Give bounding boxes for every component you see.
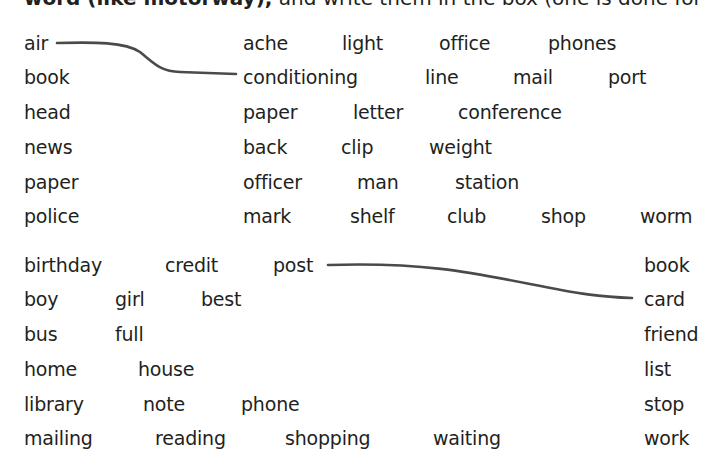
connector-post-card — [328, 264, 632, 298]
word-news: news — [24, 135, 72, 159]
word-weight: weight — [429, 135, 492, 159]
word-card: card — [644, 287, 685, 311]
word-mail: mail — [513, 65, 553, 89]
word-station: station — [455, 170, 519, 194]
word-line: line — [425, 65, 459, 89]
word-list: list — [644, 357, 671, 381]
word-conference: conference — [458, 100, 562, 124]
word-light: light — [342, 31, 383, 55]
word-shopping: shopping — [285, 426, 370, 450]
word-back: back — [243, 135, 287, 159]
word-note: note — [143, 392, 185, 416]
word-letter: letter — [353, 100, 403, 124]
word-post: post — [273, 253, 313, 277]
word-friend: friend — [644, 322, 698, 346]
word-ache: ache — [243, 31, 288, 55]
word-man: man — [357, 170, 399, 194]
word-library: library — [24, 392, 84, 416]
word-office: office — [439, 31, 490, 55]
word-book: book — [24, 65, 70, 89]
instructions-header: word (like motorway), and write them in … — [24, 0, 702, 10]
word-paper-2: paper — [243, 100, 297, 124]
word-clip: clip — [341, 135, 373, 159]
connector-air-conditioning — [57, 43, 236, 74]
word-home: home — [24, 357, 77, 381]
word-club: club — [447, 204, 486, 228]
word-worm: worm — [640, 204, 692, 228]
word-best: best — [201, 287, 241, 311]
word-bus: bus — [24, 322, 57, 346]
word-stop: stop — [644, 392, 684, 416]
word-phones: phones — [548, 31, 616, 55]
word-birthday: birthday — [24, 253, 102, 277]
word-full: full — [115, 322, 144, 346]
word-air: air — [24, 31, 48, 55]
instructions-bold: word (like motorway), — [24, 0, 272, 10]
word-paper: paper — [24, 170, 78, 194]
word-mailing: mailing — [24, 426, 93, 450]
word-house: house — [138, 357, 194, 381]
word-port: port — [608, 65, 646, 89]
word-shop: shop — [541, 204, 586, 228]
word-credit: credit — [165, 253, 218, 277]
word-conditioning: conditioning — [243, 65, 358, 89]
word-phone: phone — [241, 392, 299, 416]
word-waiting: waiting — [433, 426, 501, 450]
word-officer: officer — [243, 170, 302, 194]
word-reading: reading — [155, 426, 226, 450]
word-boy: boy — [24, 287, 58, 311]
word-book-2: book — [644, 253, 690, 277]
word-work: work — [644, 426, 689, 450]
word-girl: girl — [115, 287, 145, 311]
word-mark: mark — [243, 204, 291, 228]
word-police: police — [24, 204, 79, 228]
word-head: head — [24, 100, 71, 124]
instructions-rest: and write them in the box (one is done f… — [272, 0, 701, 10]
word-shelf: shelf — [350, 204, 395, 228]
